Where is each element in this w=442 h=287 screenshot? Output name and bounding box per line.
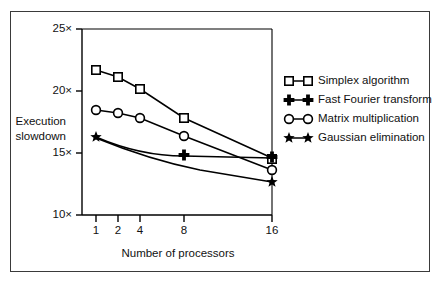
legend-item-gaussian-elimination[interactable]: Gaussian elimination [283,131,424,143]
y-axis-ticks [76,29,82,215]
chart-figure: 25× 20× 15× 10× 1 2 4 8 16 Execution slo… [0,0,442,287]
x-axis-ticks [96,215,272,222]
x-tick-label-8: 8 [181,224,187,236]
legend-item-simplex-algorithm[interactable]: Simplex algorithm [285,74,410,86]
x-axis-title: Number of processors [121,247,234,259]
x-tick-label-4: 4 [137,224,144,236]
legend-label-gaussian-elimination: Gaussian elimination [318,131,425,143]
y-tick-label-15x: 15× [52,146,72,158]
legend-item-matrix-multiplication[interactable]: Matrix multiplication [285,112,419,124]
plot-area: 25× 20× 15× 10× 1 2 4 8 16 Execution slo… [0,0,442,287]
x-tick-label-2: 2 [115,224,121,236]
y-tick-label-20x: 20× [52,84,72,96]
legend-label-fast-fourier-transform: Fast Fourier transform [318,93,432,105]
legend-item-fast-fourier-transform[interactable]: Fast Fourier transform [284,93,432,105]
y-axis-title-line1: Execution [15,115,66,127]
x-tick-label-1: 1 [93,224,99,236]
y-axis-title-line2: slowdown [16,130,67,142]
legend: Simplex algorithm Fast Fourier transform… [283,74,431,143]
axis-lines [82,29,272,215]
legend-label-simplex-algorithm: Simplex algorithm [318,74,409,86]
y-tick-label-10x: 10× [52,208,72,220]
legend-label-matrix-multiplication: Matrix multiplication [318,112,419,124]
y-tick-label-25x: 25× [52,22,72,34]
x-tick-label-16: 16 [266,224,279,236]
